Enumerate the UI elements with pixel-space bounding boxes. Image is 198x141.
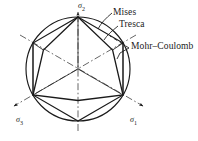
axis-label-sigma1-subscript: 1 <box>134 120 137 126</box>
label-mohr-coulomb: Mohr–Coulomb <box>131 42 193 52</box>
label-mises: Mises <box>113 8 136 18</box>
label-tresca: Tresca <box>119 20 145 30</box>
spoke-to-lower-left-vertex <box>33 69 78 95</box>
axis-label-sigma2-subscript: 2 <box>82 6 85 12</box>
spoke-to-lower-right-vertex <box>78 69 123 95</box>
axis-label-sigma1: σ1 <box>130 116 137 126</box>
chord-upper-right <box>113 43 123 50</box>
axis-label-sigma3: σ3 <box>16 116 23 126</box>
axis-label-sigma2: σ2 <box>78 2 85 12</box>
axis-label-sigma3-subscript: 3 <box>20 120 23 126</box>
yield-surface-diagram <box>0 0 198 141</box>
chord-upper-left <box>33 43 43 50</box>
leader-mises <box>98 13 112 29</box>
yield-surface-figure: Mises Tresca Mohr–Coulomb σ2 σ1 σ3 <box>0 0 198 141</box>
